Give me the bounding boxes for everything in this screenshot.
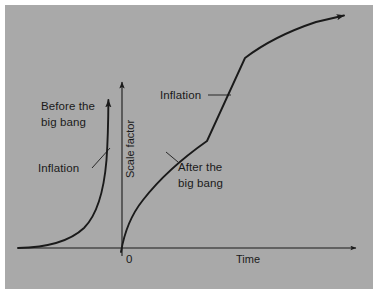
x-axis-label-time: Time bbox=[236, 253, 260, 265]
y-axis-label-scale-factor: Scale factor bbox=[124, 120, 136, 178]
leader-lines-group bbox=[92, 95, 231, 168]
after-big-bang-label-line2: big bang bbox=[178, 177, 223, 189]
cosmology-scale-factor-diagram: Before the big bang Inflation Inflation … bbox=[0, 0, 378, 295]
inflation-left-label: Inflation bbox=[38, 162, 79, 174]
after-big-bang-label-line1: After the bbox=[178, 161, 222, 173]
before-big-bang-label-line2: big bang bbox=[41, 116, 86, 128]
figure-root: Before the big bang Inflation Inflation … bbox=[0, 0, 378, 295]
origin-label-zero: 0 bbox=[126, 253, 132, 265]
before-big-bang-label-line1: Before the bbox=[41, 100, 95, 112]
after-big-bang-leader-line bbox=[166, 152, 178, 162]
inflation-right-label: Inflation bbox=[160, 89, 201, 101]
after-big-bang-path bbox=[121, 16, 344, 253]
curve-after-big-bang bbox=[121, 16, 344, 253]
annotations-group: Before the big bang Inflation Inflation … bbox=[38, 89, 260, 265]
